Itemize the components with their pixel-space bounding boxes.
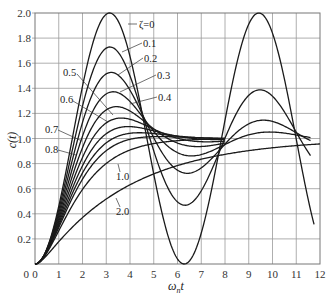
x-tick-label: 7 — [199, 268, 205, 280]
curve-label: 0.3 — [157, 70, 170, 81]
curve-label: 0.5 — [63, 67, 76, 78]
y-tick-label: 1.2 — [17, 107, 31, 119]
curve-label: 0.7 — [45, 124, 58, 135]
x-tick-label: 2 — [80, 268, 86, 280]
x-axis-title: ωnt — [168, 279, 184, 295]
y-tick-label: 0.4 — [17, 208, 31, 220]
x-tick-label: 8 — [222, 268, 228, 280]
x-tick-label: 4 — [127, 268, 133, 280]
curve-label: 0.6 — [60, 94, 73, 105]
y-tick-label: 2.0 — [17, 7, 31, 19]
y-tick-label: 0.8 — [17, 158, 31, 170]
leader-line — [122, 43, 142, 52]
x-tick-label: 0 — [32, 268, 38, 280]
step-response-chart: ζ=00.10.20.30.40.50.60.70.81.02.0 012345… — [0, 0, 334, 300]
x-tick-label: 3 — [104, 268, 110, 280]
y-tick-label: 1.4 — [17, 82, 31, 94]
y-tick-labels: 00.20.40.60.81.01.21.41.61.82.0 — [17, 7, 31, 280]
x-tick-label: 11 — [291, 268, 302, 280]
curve-label: ζ=0 — [139, 19, 155, 31]
curve-label: 0.1 — [143, 38, 156, 49]
x-tick-label: 12 — [315, 268, 326, 280]
curve-label: 0.8 — [45, 144, 58, 155]
curve-label: 0.2 — [144, 53, 157, 64]
y-axis-title: c(t) — [5, 132, 19, 149]
response-curve-zeta-0_2 — [35, 72, 311, 264]
curve-label: 1.0 — [116, 171, 129, 182]
y-tick-label: 0.2 — [17, 233, 31, 245]
x-tick-labels: 0123456789101112 — [32, 268, 325, 280]
y-tick-label: 1.6 — [17, 57, 31, 69]
x-tick-label: 5 — [151, 268, 157, 280]
curve-label: 2.0 — [116, 206, 129, 217]
x-tick-label: 9 — [246, 268, 252, 280]
x-tick-label: 1 — [56, 268, 62, 280]
y-tick-label: 1.8 — [17, 32, 31, 44]
y-tick-label: 1.0 — [17, 133, 31, 145]
y-tick-label: 0.6 — [17, 183, 31, 195]
curve-label: 0.4 — [158, 92, 172, 103]
leader-line — [73, 101, 108, 122]
x-tick-label: 10 — [267, 268, 279, 280]
leader-line — [58, 150, 76, 155]
y-tick-label: 0 — [24, 268, 30, 280]
